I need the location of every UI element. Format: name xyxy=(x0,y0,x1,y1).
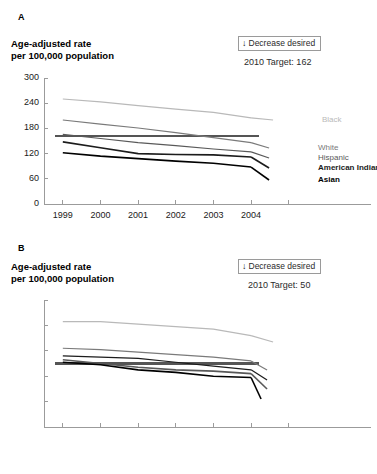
panel-a-y-tick-label: 0 xyxy=(13,198,39,208)
panel-a-x-tick-label: 2001 xyxy=(121,210,155,220)
panel-b-series-leader xyxy=(251,377,261,399)
panel-a-series-line xyxy=(63,120,251,143)
panel-a-series-label: Hispanic xyxy=(318,153,349,162)
panel-a-x-tick-label: 2003 xyxy=(196,210,230,220)
panel-b-series-line xyxy=(63,348,251,361)
panel-b-series-line xyxy=(63,322,251,336)
panel-a-x-tick-label: 1999 xyxy=(46,210,80,220)
panel-b-svg xyxy=(0,237,377,474)
panel-a-x-tick-label: 2004 xyxy=(234,210,268,220)
panel-a-x-tick-label: 2002 xyxy=(159,210,193,220)
panel-a-series-leader xyxy=(251,118,273,120)
panel-b: B Age-adjusted rate per 100,000 populati… xyxy=(0,237,377,474)
panel-a-y-tick-label: 180 xyxy=(13,122,39,132)
panel-a-series-label: American Indian xyxy=(318,163,377,172)
panel-a-x-tick-label: 2000 xyxy=(83,210,117,220)
panel-a-svg xyxy=(0,0,377,237)
panel-a-plot xyxy=(0,0,377,237)
panel-b-plot xyxy=(0,237,377,474)
panel-a-series-leader xyxy=(251,152,269,158)
panel-a-series-label: Asian xyxy=(318,175,340,184)
panel-a-series-leader xyxy=(251,157,269,168)
panel-b-series-leader xyxy=(251,336,273,342)
panel-b-series-leader xyxy=(251,361,267,370)
panel-a-series-leader xyxy=(251,167,269,180)
panel-a-y-tick-label: 120 xyxy=(13,148,39,158)
panel-a-y-tick-label: 240 xyxy=(13,97,39,107)
panel-a: A Age-adjusted rate per 100,000 populati… xyxy=(0,0,377,237)
panel-a-y-tick-label: 300 xyxy=(13,72,39,82)
panel-a-series-line xyxy=(63,99,251,118)
panel-a-series-leader xyxy=(251,143,269,148)
panel-a-series-label: Black xyxy=(322,115,342,124)
panel-a-series-label: White xyxy=(318,143,338,152)
panel-a-y-tick-label: 60 xyxy=(13,173,39,183)
